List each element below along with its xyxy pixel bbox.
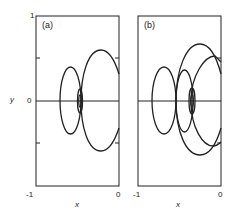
xb-tick-left: -1 xyxy=(133,190,140,199)
figure xyxy=(0,0,232,217)
panel-a-label: (a) xyxy=(42,20,53,30)
y-tick-top: 1 xyxy=(30,11,34,20)
x-axis-label-a: x xyxy=(75,200,79,209)
xb-tick-right: 0 xyxy=(218,190,222,199)
xa-tick-right: 0 xyxy=(116,190,120,199)
panel-b-label: (b) xyxy=(144,20,155,30)
y-tick-zero: 0 xyxy=(27,96,31,105)
y-axis-label: y xyxy=(10,95,14,104)
xa-tick-left: -1 xyxy=(26,190,33,199)
x-axis-label-b: x xyxy=(176,200,180,209)
panel-b-loop-c xyxy=(176,44,221,155)
